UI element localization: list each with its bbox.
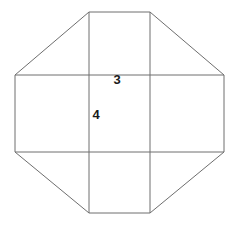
octagon-diagram: 3 4 (0, 0, 232, 226)
octagon-outline (15, 12, 224, 213)
octagon-figure-canvas: 3 4 (0, 0, 232, 226)
height-label: 4 (92, 107, 100, 122)
width-label: 3 (113, 72, 120, 87)
